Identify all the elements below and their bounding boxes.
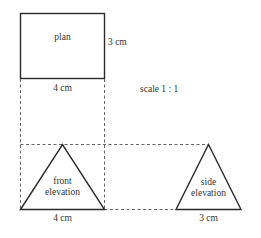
orthographic-projection-diagram: plan 3 cm 4 cm scale 1 : 1 front elevati…	[0, 0, 261, 238]
plan-rectangle	[21, 14, 105, 79]
side-elevation-width-label: 3 cm	[199, 213, 218, 223]
scale-label: scale 1 : 1	[140, 84, 179, 94]
front-elevation-label-line1: front	[53, 176, 72, 186]
plan-label: plan	[54, 32, 71, 42]
plan-width-label: 4 cm	[53, 83, 72, 93]
plan-depth-label: 3 cm	[108, 37, 127, 47]
front-elevation-label-line2: elevation	[45, 187, 80, 197]
side-elevation-label-line1: side	[201, 177, 216, 187]
side-elevation-label-line2: elevation	[191, 188, 226, 198]
front-elevation-width-label: 4 cm	[53, 213, 72, 223]
